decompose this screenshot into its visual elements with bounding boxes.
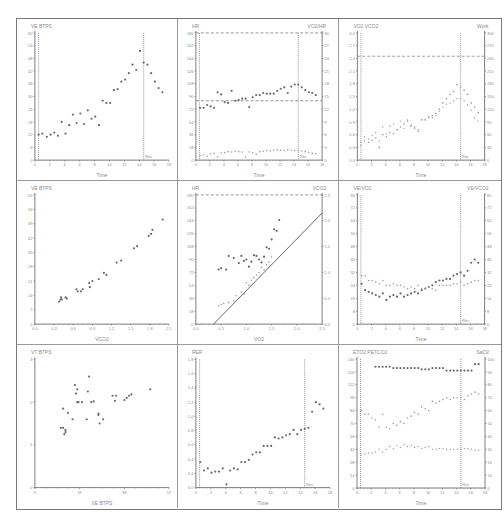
y-right-tick-label: 9 [325, 120, 328, 125]
data-point [244, 461, 246, 463]
data-point [477, 262, 479, 264]
x-tick-label: 6 [78, 162, 81, 167]
data-point [304, 89, 306, 91]
x-tick-label: 4 [225, 490, 228, 495]
data-point [431, 367, 433, 369]
data-point [456, 397, 458, 399]
data-point [72, 113, 74, 115]
data-point [407, 119, 408, 120]
data-point [63, 433, 65, 435]
data-point [98, 124, 100, 126]
panel-end-tidal-gases: ETO2 PETCO2SaO2Time014284256708498112126… [339, 345, 501, 508]
data-point [371, 280, 373, 282]
data-point [103, 272, 105, 274]
x-tick-label: 2 [370, 162, 372, 167]
data-point [231, 151, 233, 153]
y-right-tick-label: 30 [325, 31, 330, 36]
y-tick-label: 1.8 [349, 81, 355, 86]
data-point [445, 278, 447, 280]
y-tick-label: 28 [350, 460, 355, 465]
data-point [446, 285, 448, 287]
data-point [75, 288, 77, 290]
x-tick-label: 0 [195, 162, 198, 167]
data-point [460, 449, 461, 450]
x-tick-label: 4 [385, 162, 388, 167]
data-point [378, 426, 380, 428]
data-point [269, 93, 271, 95]
data-point [374, 366, 376, 368]
y-axis-label: VO2 VCO2 [353, 24, 378, 29]
data-point [206, 104, 208, 106]
data-point [478, 393, 480, 395]
data-point [128, 72, 130, 74]
data-point [389, 296, 391, 298]
data-point [274, 436, 276, 438]
data-point [123, 399, 125, 401]
x-tick-label: 1.8 [147, 326, 153, 331]
x-tick-label: 2 [370, 490, 373, 495]
data-point [161, 91, 163, 93]
x-tick-label: 0 [34, 490, 37, 495]
data-point [360, 142, 362, 144]
x-tick-label: 18 [482, 326, 487, 331]
data-point [442, 399, 444, 401]
data-point [151, 229, 153, 231]
data-point [304, 151, 306, 153]
data-point [76, 122, 78, 124]
data-point [446, 370, 448, 372]
y-tick-label: 0.0 [188, 485, 194, 490]
data-point [364, 453, 365, 454]
data-point [126, 397, 128, 399]
y-right-tick-label: 0.0 [325, 322, 331, 327]
data-point [62, 427, 64, 429]
data-point [41, 133, 43, 135]
y-right-tick-label: 56 [487, 231, 492, 236]
data-point [248, 151, 250, 153]
data-point [66, 297, 68, 299]
y-axis-label: ETO2 PETCO2 [353, 349, 388, 355]
plot-ve-vs-time: VE BTPSTime06121824303642485460024681012… [17, 19, 177, 180]
x-axis-label: Time [254, 173, 265, 178]
x-tick-label: 16 [306, 162, 311, 167]
y-tick-label: 2.7 [349, 43, 355, 48]
data-point [271, 256, 273, 258]
data-point [428, 446, 429, 447]
data-point [431, 284, 433, 286]
data-point [266, 445, 268, 447]
data-point [474, 117, 475, 118]
data-point [245, 156, 247, 158]
data-point [393, 123, 394, 124]
y-right-tick-label: 120 [487, 107, 494, 112]
data-point [251, 279, 253, 281]
y-axis-label: VE/VO2 [353, 186, 371, 191]
data-point [268, 248, 270, 250]
y-tick-label: 18 [28, 120, 33, 125]
data-point [474, 106, 476, 108]
data-point [435, 402, 437, 404]
x-tick-label: 4 [223, 162, 226, 167]
x-tick-label: 8 [93, 162, 96, 167]
x-tick-label: 16 [468, 162, 473, 167]
data-point [255, 94, 257, 96]
y-right-tick-label: 12 [325, 107, 329, 112]
data-point [77, 290, 79, 292]
data-point [368, 138, 369, 139]
x-tick-label: 0.3 [51, 326, 57, 331]
data-point [463, 285, 465, 287]
data-point [417, 292, 419, 294]
x-tick-label: 4 [64, 162, 67, 167]
y-axis-label: HR [192, 24, 200, 29]
data-point [400, 285, 402, 287]
data-point [199, 107, 201, 109]
data-point [266, 150, 268, 152]
data-point [435, 289, 437, 291]
y-right-tick-label: 30 [487, 145, 492, 150]
y-right-tick-label: 8 [487, 309, 490, 314]
data-point [435, 449, 436, 450]
data-point [364, 413, 366, 415]
x-tick-label: 12 [122, 162, 126, 167]
y-tick-label: 64 [350, 218, 355, 223]
data-point [88, 375, 90, 377]
data-point [300, 429, 302, 431]
y-tick-label: 60 [28, 31, 33, 36]
